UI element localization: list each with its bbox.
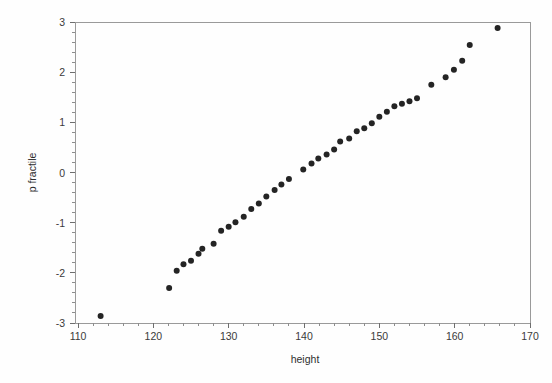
data-point [324,151,330,157]
x-tick-label: 170 [521,330,539,342]
data-point [211,241,217,247]
y-axis-title: p fractile [26,153,38,193]
x-tick-label: 120 [145,330,163,342]
data-point [272,187,278,193]
data-point [459,58,465,64]
data-point [354,128,360,134]
data-point [467,42,473,48]
qq-plot: 110120130140150160170 -3-2-10123 height … [0,0,552,383]
data-point [166,285,172,291]
data-point [369,120,375,126]
data-point [286,176,292,182]
y-tick-label: 1 [59,116,65,128]
data-point [232,219,238,225]
data-point [451,67,457,73]
y-tick-label: -2 [56,267,65,279]
data-point [218,228,224,234]
scatter-points [98,25,501,319]
x-tick-label: 130 [220,330,238,342]
data-point [406,98,412,104]
data-point [399,101,405,107]
x-axis-ticks [78,323,530,328]
data-point [199,246,205,252]
data-point [188,258,194,264]
x-tick-label: 140 [295,330,313,342]
data-point [428,82,434,88]
data-point [495,25,501,31]
data-point [309,160,315,166]
x-tick-label: 150 [371,330,389,342]
plot-frame [75,22,530,323]
data-point [337,138,343,144]
data-point [346,135,352,141]
data-point [361,125,367,131]
data-point [256,201,262,207]
data-point [414,95,420,101]
data-point [226,224,232,230]
chart-figure: 110120130140150160170 -3-2-10123 height … [0,0,552,383]
data-point [263,194,269,200]
y-tick-label: -1 [56,217,65,229]
y-tick-label: -3 [56,317,65,329]
y-axis-tick-labels: -3-2-10123 [56,16,66,329]
data-point [315,155,321,161]
data-point [331,146,337,152]
data-point [278,182,284,188]
data-point [376,114,382,120]
data-point [174,268,180,274]
data-point [300,166,306,172]
x-axis-title: height [291,353,320,365]
data-point [391,103,397,109]
data-point [241,214,247,220]
data-point [196,251,202,257]
y-tick-label: 3 [59,16,65,28]
x-axis-tick-labels: 110120130140150160170 [70,330,539,342]
data-point [248,206,254,212]
y-tick-label: 0 [59,167,65,179]
data-point [443,74,449,80]
x-tick-label: 160 [446,330,464,342]
y-axis-ticks [70,22,75,323]
y-tick-label: 2 [59,66,65,78]
x-tick-label: 110 [70,330,87,342]
data-point [98,313,104,319]
data-point [384,109,390,115]
data-point [180,261,186,267]
